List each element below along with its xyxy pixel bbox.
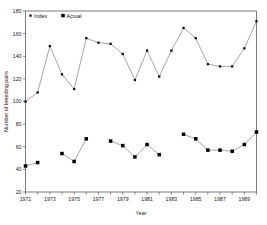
y-tick-label: 100	[13, 98, 22, 104]
data-point-index	[219, 65, 221, 67]
data-point-actual	[133, 155, 137, 159]
data-point-actual	[72, 160, 76, 164]
x-tick-label: 1977	[93, 196, 105, 202]
x-tick-label: 1983	[166, 196, 178, 202]
data-point-actual	[24, 164, 28, 168]
y-tick-label: 60	[16, 144, 22, 150]
data-point-index	[85, 37, 87, 39]
data-point-index	[73, 88, 75, 90]
data-point-index	[61, 73, 63, 75]
x-axis-ticks: 1971197319751977197919811983198519871989	[20, 192, 257, 202]
data-point-index	[134, 79, 136, 81]
y-tick-label: 160	[13, 31, 22, 37]
x-tick-label: 1981	[141, 196, 153, 202]
data-point-actual	[145, 143, 149, 147]
data-point-index	[170, 49, 172, 51]
data-point-index	[158, 75, 160, 77]
data-point-actual	[157, 153, 161, 157]
data-point-index	[182, 27, 184, 29]
y-tick-label: 140	[13, 53, 22, 59]
data-point-actual	[85, 137, 89, 141]
series-line-actual	[111, 141, 160, 157]
chart-container: 20406080100120140160180 1971197319751977…	[0, 0, 267, 225]
series-line-actual	[62, 139, 86, 162]
data-point-index	[243, 47, 245, 49]
x-tick-label: 1979	[117, 196, 129, 202]
data-point-index	[37, 91, 39, 93]
data-point-index	[195, 37, 197, 39]
series-layer	[24, 20, 259, 168]
x-tick-label: 1975	[68, 196, 80, 202]
series-line-actual	[26, 163, 38, 166]
series-line-index	[26, 21, 257, 101]
data-point-actual	[60, 152, 64, 156]
data-point-index	[122, 53, 124, 55]
data-point-actual	[206, 148, 210, 152]
data-point-actual	[230, 150, 234, 154]
data-point-actual	[194, 137, 198, 141]
data-point-index	[24, 100, 26, 102]
y-tick-label: 20	[16, 189, 22, 195]
data-point-actual	[36, 161, 40, 165]
data-point-actual	[218, 148, 222, 152]
breeding-pairs-line-chart: 20406080100120140160180 1971197319751977…	[0, 0, 267, 225]
legend-marker-index	[29, 14, 31, 16]
x-tick-label: 1985	[190, 196, 202, 202]
y-tick-label: 40	[16, 166, 22, 172]
y-axis-ticks: 20406080100120140160180	[13, 8, 26, 195]
y-tick-label: 80	[16, 121, 22, 127]
data-point-index	[207, 63, 209, 65]
data-point-index	[255, 20, 257, 22]
y-tick-label: 180	[13, 8, 22, 14]
data-point-actual	[109, 139, 113, 143]
data-point-index	[97, 42, 99, 44]
x-tick-label: 1973	[44, 196, 56, 202]
data-point-index	[231, 65, 233, 67]
y-tick-label: 120	[13, 76, 22, 82]
data-point-index	[146, 49, 148, 51]
legend-label-index: Index	[34, 13, 47, 19]
legend-marker-actual	[61, 14, 65, 18]
data-point-index	[109, 43, 111, 45]
axis-frame	[26, 11, 257, 192]
data-point-actual	[182, 133, 186, 137]
x-tick-label: 1987	[214, 196, 226, 202]
x-tick-label: 1971	[20, 196, 32, 202]
data-point-actual	[255, 130, 259, 134]
x-axis-title: Year	[136, 210, 147, 216]
legend-label-actual: Actual	[66, 13, 81, 19]
data-point-actual	[243, 143, 247, 147]
chart-legend: IndexActual	[29, 13, 81, 19]
data-point-actual	[121, 144, 125, 148]
data-point-index	[49, 45, 51, 47]
x-tick-label: 1989	[239, 196, 251, 202]
y-axis-title: Number of breeding pairs	[3, 71, 9, 132]
